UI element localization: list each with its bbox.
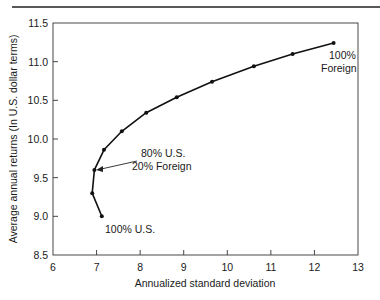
x-tick-label: 12 [309, 261, 321, 273]
y-tick-label: 9.0 [33, 210, 48, 222]
data-point [252, 64, 256, 68]
annotation-20-foreign: 20% Foreign [132, 160, 192, 172]
arrowhead-icon [96, 166, 103, 172]
annotation-foreign: Foreign [321, 62, 357, 74]
annotation-80-us: 80% U.S. [141, 147, 185, 159]
data-point [92, 168, 96, 172]
x-tick-label: 7 [94, 261, 100, 273]
plot-frame [53, 23, 358, 255]
x-axis-ticks: 678910111213 [50, 250, 364, 273]
x-tick-label: 13 [352, 261, 364, 273]
data-point [102, 148, 106, 152]
x-tick-label: 9 [181, 261, 187, 273]
y-tick-label: 10.0 [28, 133, 49, 145]
data-point [100, 214, 104, 218]
data-point [175, 95, 179, 99]
x-tick-label: 10 [221, 261, 233, 273]
data-point [120, 129, 124, 133]
data-point [210, 80, 214, 84]
y-tick-label: 11.5 [28, 17, 48, 29]
y-tick-label: 9.5 [33, 172, 48, 184]
frontier-line [92, 43, 333, 216]
y-tick-label: 10.5 [28, 94, 49, 106]
x-axis-label: Annualized standard deviation [135, 277, 276, 289]
annotation-100-us: 100% U.S. [105, 223, 155, 235]
x-tick-label: 8 [137, 261, 143, 273]
data-point [332, 41, 336, 45]
x-tick-label: 11 [265, 261, 276, 273]
data-point [291, 52, 295, 56]
y-axis-label: Average annual returns (In U.S. dollar t… [7, 35, 19, 244]
data-point [144, 111, 148, 115]
data-point [90, 191, 94, 195]
x-tick-label: 6 [50, 261, 56, 273]
y-tick-label: 11.0 [28, 56, 48, 68]
frontier-markers [90, 41, 335, 218]
annotation-100-pct: 100% [329, 49, 356, 61]
y-tick-label: 8.5 [33, 249, 48, 261]
chart: 678910111213 8.59.09.510.010.511.011.5 1… [0, 0, 380, 300]
